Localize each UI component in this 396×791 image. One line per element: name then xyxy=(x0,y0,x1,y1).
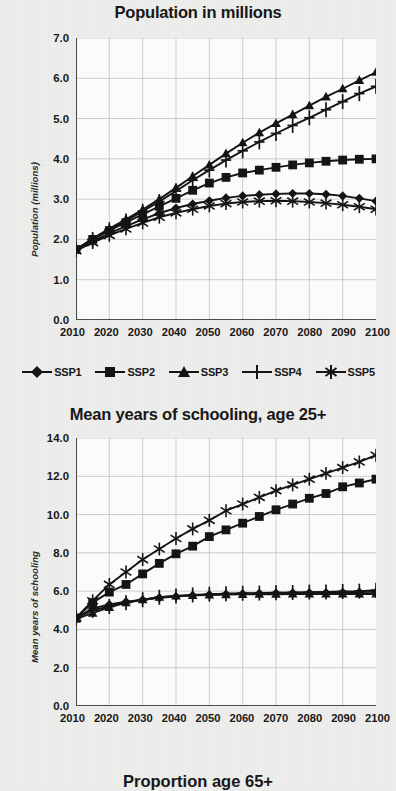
x-tick-label: 2100 xyxy=(365,712,390,724)
y-tick-label: 4.0 xyxy=(0,623,69,635)
y-tick-label: 1.0 xyxy=(0,274,69,286)
schooling-y-axis-label: Mean years of schooling xyxy=(29,551,40,663)
x-tick-label: 2030 xyxy=(128,326,153,338)
y-tick-label: 10.0 xyxy=(0,509,69,521)
y-tick-label: 0.0 xyxy=(0,700,69,712)
square-marker xyxy=(94,364,126,380)
legend-label-ssp3: SSP3 xyxy=(201,366,228,378)
legend-label-ssp4: SSP4 xyxy=(274,366,301,378)
x-tick-label: 2090 xyxy=(331,712,356,724)
schooling-plot-area xyxy=(76,438,376,706)
y-tick-label: 0.0 xyxy=(0,314,69,326)
legend-label-ssp2: SSP2 xyxy=(127,366,154,378)
plus-marker xyxy=(241,364,273,380)
x-tick-label: 2020 xyxy=(94,712,119,724)
legend-item-ssp4[interactable]: SSP4 xyxy=(241,364,301,380)
figure-page: Population in millions Population (milli… xyxy=(0,0,396,791)
diamond-marker xyxy=(21,364,53,380)
asterisk-marker xyxy=(315,364,347,380)
triangle-marker xyxy=(168,364,200,380)
legend-label-ssp1: SSP1 xyxy=(54,366,81,378)
x-tick-label: 2060 xyxy=(229,712,254,724)
x-tick-label: 2050 xyxy=(196,712,221,724)
y-tick-label: 7.0 xyxy=(0,32,69,44)
x-tick-label: 2090 xyxy=(331,326,356,338)
y-tick-label: 14.0 xyxy=(0,432,69,444)
next-chart-title-clipped: Proportion age 65+ xyxy=(0,772,396,791)
chart-legend: SSP1 SSP2 SSP3 xyxy=(0,362,396,382)
x-tick-label: 2070 xyxy=(263,712,288,724)
population-plot-area xyxy=(76,38,376,320)
x-tick-label: 2010 xyxy=(60,326,85,338)
x-tick-label: 2010 xyxy=(60,712,85,724)
x-tick-label: 2040 xyxy=(162,326,187,338)
x-tick-label: 2050 xyxy=(196,326,221,338)
y-tick-label: 3.0 xyxy=(0,193,69,205)
y-tick-label: 6.0 xyxy=(0,72,69,84)
y-tick-label: 4.0 xyxy=(0,153,69,165)
x-tick-label: 2080 xyxy=(297,712,322,724)
x-tick-label: 2070 xyxy=(263,326,288,338)
x-tick-label: 2040 xyxy=(162,712,187,724)
legend-label-ssp5: SSP5 xyxy=(348,366,375,378)
schooling-x-tick-labels: 2010202020302040205020602070208020902100 xyxy=(60,712,390,724)
x-tick-label: 2100 xyxy=(365,326,390,338)
y-tick-label: 5.0 xyxy=(0,113,69,125)
population-figure: Population in millions Population (milli… xyxy=(0,0,396,396)
y-tick-label: 12.0 xyxy=(0,470,69,482)
schooling-figure: Mean years of schooling, age 25+ Mean ye… xyxy=(0,400,396,760)
x-tick-label: 2060 xyxy=(229,326,254,338)
x-tick-label: 2080 xyxy=(297,326,322,338)
x-tick-label: 2030 xyxy=(128,712,153,724)
schooling-chart-title: Mean years of schooling, age 25+ xyxy=(0,405,396,424)
y-tick-label: 8.0 xyxy=(0,547,69,559)
legend-item-ssp3[interactable]: SSP3 xyxy=(168,364,228,380)
population-x-tick-labels: 2010202020302040205020602070208020902100 xyxy=(60,326,390,338)
x-tick-label: 2020 xyxy=(94,326,119,338)
population-chart-title: Population in millions xyxy=(0,3,396,22)
legend-item-ssp5[interactable]: SSP5 xyxy=(315,364,375,380)
y-tick-label: 6.0 xyxy=(0,585,69,597)
legend-item-ssp2[interactable]: SSP2 xyxy=(94,364,154,380)
y-tick-label: 2.0 xyxy=(0,662,69,674)
y-tick-label: 2.0 xyxy=(0,233,69,245)
legend-item-ssp1[interactable]: SSP1 xyxy=(21,364,81,380)
